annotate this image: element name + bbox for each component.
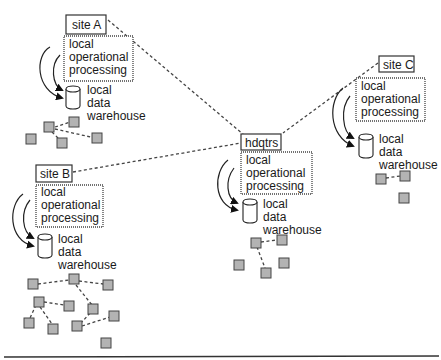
site-b: site B local operational processing loca… bbox=[13, 165, 119, 348]
flow-arrow-icon bbox=[228, 168, 237, 203]
site-c-nodes bbox=[376, 171, 410, 203]
diagram-svg: site A local operational processing loca… bbox=[0, 0, 441, 360]
site-c: site C local operational processing loca… bbox=[333, 56, 438, 203]
site-b-proc-line1: local bbox=[41, 185, 66, 199]
hdqtrs-proc-line2: operational bbox=[246, 166, 305, 180]
hdqtrs-proc-line3: processing bbox=[246, 179, 304, 193]
site-a-wh-line2: data bbox=[87, 96, 111, 110]
site-a: site A local operational processing loca… bbox=[26, 15, 146, 148]
site-b-nodes bbox=[24, 274, 119, 348]
site-c-wh-line3: warehouse bbox=[378, 158, 438, 172]
hdqtrs: hdqtrs local operational processing loca… bbox=[218, 134, 322, 278]
site-b-label: site B bbox=[40, 167, 70, 181]
site-a-label: site A bbox=[72, 18, 101, 32]
site-a-wh-line3: warehouse bbox=[86, 109, 146, 123]
database-cylinder-icon bbox=[66, 86, 80, 109]
database-cylinder-icon bbox=[243, 199, 257, 223]
hdqtrs-wh-line1: local bbox=[263, 197, 288, 211]
site-b-wh-line2: data bbox=[58, 245, 82, 259]
site-a-proc-line1: local bbox=[69, 37, 94, 51]
bottom-rule bbox=[4, 356, 439, 357]
site-c-wh-line2: data bbox=[379, 145, 403, 159]
site-b-proc-line2: operational bbox=[41, 198, 100, 212]
site-c-label: site C bbox=[383, 58, 414, 72]
hdqtrs-nodes bbox=[234, 235, 289, 278]
hdqtrs-proc-line1: local bbox=[246, 153, 271, 167]
site-a-proc-line3: processing bbox=[69, 63, 127, 77]
hdqtrs-label: hdqtrs bbox=[245, 136, 278, 150]
site-c-wh-line1: local bbox=[379, 132, 404, 146]
flow-arrow-icon bbox=[24, 200, 33, 238]
hdqtrs-wh-line3: warehouse bbox=[262, 223, 322, 237]
database-cylinder-icon bbox=[38, 234, 52, 258]
flow-arrow-icon bbox=[344, 96, 353, 138]
flow-arrow-icon bbox=[40, 47, 62, 98]
site-b-proc-line3: processing bbox=[41, 211, 99, 225]
site-a-wh-line1: local bbox=[87, 83, 112, 97]
site-b-wh-line3: warehouse bbox=[57, 258, 117, 272]
site-c-proc-line1: local bbox=[361, 79, 386, 93]
site-c-proc-line3: processing bbox=[361, 105, 419, 119]
link-siteB-hdqtrs bbox=[73, 143, 241, 172]
flow-arrow-icon bbox=[13, 194, 33, 246]
site-b-wh-line1: local bbox=[58, 232, 83, 246]
database-cylinder-icon bbox=[359, 134, 373, 158]
site-a-proc-line2: operational bbox=[69, 50, 128, 64]
site-c-proc-line2: operational bbox=[361, 92, 420, 106]
diagram-canvas: site A local operational processing loca… bbox=[0, 0, 441, 360]
flow-arrow-icon bbox=[53, 55, 62, 90]
hdqtrs-wh-line2: data bbox=[263, 210, 287, 224]
